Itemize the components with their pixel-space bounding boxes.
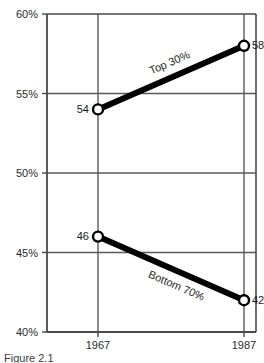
data-label-bottom-70-1987: 42 [252,294,264,306]
ytick-label-45: 45% [16,247,38,259]
data-label-top-30-1987: 58 [252,39,264,51]
x-axis-tick-labels: 1967 1987 [86,339,256,351]
data-point-bottom-70-1987[interactable] [239,295,249,305]
ytick-label-55: 55% [16,88,38,100]
data-point-bottom-70-1967[interactable] [93,232,103,242]
data-point-top-30-1967[interactable] [93,104,103,114]
xtick-label-1987: 1987 [232,339,256,351]
ytick-label-50: 50% [16,167,38,179]
data-label-bottom-70-1967: 46 [77,230,89,242]
ytick-label-60: 60% [16,8,38,20]
xtick-label-1967: 1967 [86,339,110,351]
figure-container: 60% 55% 50% 45% 40% 1967 1987 Top 30% 54… [0,0,264,363]
data-point-top-30-1987[interactable] [239,41,249,51]
figure-caption: Figure 2.1 [4,352,54,363]
y-axis-tick-labels: 60% 55% 50% 45% 40% [16,8,38,338]
slope-chart: 60% 55% 50% 45% 40% 1967 1987 Top 30% 54… [0,0,264,363]
ytick-label-40: 40% [16,326,38,338]
data-label-top-30-1967: 54 [77,103,89,115]
